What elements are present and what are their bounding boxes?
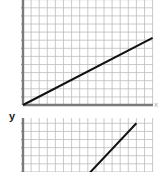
x-axis-label: x (154, 100, 158, 109)
graph-paper-charts (0, 0, 158, 172)
grid-lines (23, 0, 153, 172)
axes (21, 0, 153, 172)
y-axis-label: y (9, 110, 15, 122)
